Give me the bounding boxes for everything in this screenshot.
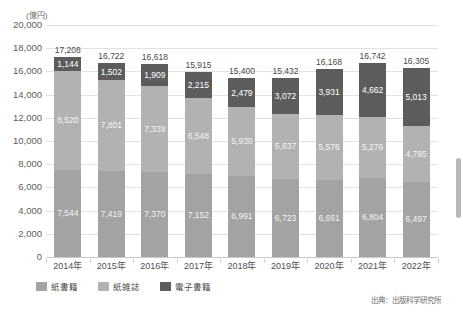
- bar-segment-mag[interactable]: 5,576: [316, 115, 343, 180]
- bar-stack[interactable]: 4,6625,2766,80416,742: [359, 63, 386, 257]
- y-axis-tick-label: 6,000: [0, 181, 42, 192]
- bar-stack[interactable]: 3,0725,6376,72315,432: [272, 78, 299, 257]
- x-axis-labels: 2014年2015年2016年2017年2018年2019年2020年2021年…: [46, 259, 438, 275]
- bar-segment-ebook[interactable]: 2,479: [228, 78, 255, 107]
- bar-segment-value-label: 7,419: [101, 210, 122, 219]
- legend-label: 電子書籍: [175, 280, 211, 292]
- bar-segment-value-label: 7,801: [101, 121, 122, 130]
- bar-total-label: 17,208: [55, 45, 81, 55]
- bar-stack[interactable]: 1,5027,8017,41916,722: [98, 63, 125, 257]
- bar-segment-book[interactable]: 6,723: [272, 179, 299, 257]
- x-axis-tick-mark: [220, 259, 221, 263]
- bar-segment-ebook[interactable]: 1,909: [141, 64, 168, 86]
- y-axis-tick-label: 18,000: [0, 42, 42, 53]
- bar-segment-value-label: 1,909: [144, 71, 165, 80]
- bar-total-label: 15,400: [229, 66, 255, 76]
- bar-segment-value-label: 6,991: [231, 212, 252, 221]
- bar-column[interactable]: 1,9097,3397,37016,618: [134, 25, 176, 257]
- bar-segment-ebook[interactable]: 3,931: [316, 69, 343, 115]
- bar-segment-ebook[interactable]: 2,215: [185, 72, 212, 98]
- bar-total-label: 16,742: [360, 51, 386, 61]
- bar-stack[interactable]: 5,0134,7956,49716,305: [403, 68, 430, 257]
- y-axis-tick-label: 14,000: [0, 89, 42, 100]
- y-axis-tick-label: 12,000: [0, 112, 42, 123]
- x-axis-tick-label: 2022年: [395, 259, 437, 272]
- bar-segment-mag[interactable]: 6,548: [185, 98, 212, 174]
- bar-column[interactable]: 2,2156,5487,15215,915: [178, 25, 220, 257]
- bar-total-label: 16,722: [98, 51, 124, 61]
- chart-legend: 紙書籍紙雑誌電子書籍: [36, 280, 211, 292]
- legend-swatch-icon: [160, 282, 171, 291]
- bar-stack[interactable]: 1,1448,5207,54417,208: [54, 57, 81, 257]
- x-axis-tick-label: 2021年: [352, 259, 394, 272]
- bar-segment-value-label: 1,502: [101, 68, 122, 77]
- x-axis-tick-label: 2016年: [134, 259, 176, 272]
- bar-column[interactable]: 3,9315,5766,66116,168: [308, 25, 350, 257]
- x-axis-tick-mark: [307, 259, 308, 263]
- y-axis-tick-label: 20,000: [0, 19, 42, 30]
- x-axis-tick-mark: [351, 259, 352, 263]
- bar-segment-book[interactable]: 7,544: [54, 170, 81, 258]
- bar-segment-value-label: 5,013: [406, 93, 427, 102]
- x-axis-tick-mark: [90, 259, 91, 263]
- x-axis-tick-label: 2018年: [221, 259, 263, 272]
- stacked-bar-chart: (億円) 1,1448,5207,54417,2081,5027,8017,41…: [0, 0, 463, 313]
- bar-total-label: 16,618: [142, 52, 168, 62]
- y-axis-tick-label: 10,000: [0, 135, 42, 146]
- bar-column[interactable]: 1,5027,8017,41916,722: [91, 25, 133, 257]
- scrollbar-thumb[interactable]: [456, 158, 461, 218]
- bar-total-label: 16,168: [316, 57, 342, 67]
- bar-segment-ebook[interactable]: 4,662: [359, 63, 386, 117]
- x-axis-tick-mark: [46, 259, 47, 263]
- legend-item[interactable]: 電子書籍: [160, 280, 211, 292]
- bar-segment-ebook[interactable]: 1,144: [54, 57, 81, 70]
- bar-segment-mag[interactable]: 7,339: [141, 86, 168, 171]
- bar-segment-ebook[interactable]: 3,072: [272, 78, 299, 114]
- bar-segment-value-label: 5,930: [231, 137, 252, 146]
- bar-segment-mag[interactable]: 7,801: [98, 80, 125, 170]
- y-axis-tick-label: 8,000: [0, 158, 42, 169]
- bar-segment-mag[interactable]: 5,637: [272, 114, 299, 179]
- x-axis-tick-label: 2014年: [47, 259, 89, 272]
- bar-column[interactable]: 3,0725,6376,72315,432: [265, 25, 307, 257]
- bar-segment-value-label: 7,152: [188, 211, 209, 220]
- legend-label: 紙書籍: [51, 280, 78, 292]
- bar-segment-value-label: 3,931: [318, 88, 339, 97]
- bar-column[interactable]: 1,1448,5207,54417,208: [47, 25, 89, 257]
- bar-stack[interactable]: 2,4795,9306,99115,400: [228, 78, 255, 257]
- bar-column[interactable]: 5,0134,7956,49716,305: [395, 25, 437, 257]
- bar-segment-mag[interactable]: 8,520: [54, 71, 81, 170]
- bar-stack[interactable]: 1,9097,3397,37016,618: [141, 64, 168, 257]
- bar-segment-value-label: 6,661: [318, 214, 339, 223]
- x-axis-tick-label: 2015年: [91, 259, 133, 272]
- bar-segment-book[interactable]: 6,497: [403, 182, 430, 257]
- bar-segment-value-label: 4,795: [406, 150, 427, 159]
- bar-segment-book[interactable]: 7,152: [185, 174, 212, 257]
- bar-segment-ebook[interactable]: 5,013: [403, 68, 430, 126]
- bar-segment-book[interactable]: 7,419: [98, 171, 125, 257]
- legend-item[interactable]: 紙雑誌: [98, 280, 140, 292]
- bar-stack[interactable]: 2,2156,5487,15215,915: [185, 72, 212, 257]
- scrollbar-track[interactable]: [454, 0, 463, 313]
- bar-segment-book[interactable]: 6,991: [228, 176, 255, 257]
- bar-segment-mag[interactable]: 5,930: [228, 107, 255, 176]
- x-axis-tick-mark: [264, 259, 265, 263]
- bar-segment-mag[interactable]: 4,795: [403, 126, 430, 182]
- bar-segment-value-label: 7,370: [144, 210, 165, 219]
- bar-stack[interactable]: 3,9315,5766,66116,168: [316, 69, 343, 257]
- bar-total-label: 16,305: [403, 56, 429, 66]
- bar-segment-ebook[interactable]: 1,502: [98, 63, 125, 80]
- bar-segment-value-label: 5,576: [318, 143, 339, 152]
- bar-segment-book[interactable]: 7,370: [141, 172, 168, 257]
- x-axis-tick-mark: [133, 259, 134, 263]
- axis-baseline: [46, 257, 438, 258]
- x-axis-tick-mark: [438, 259, 439, 263]
- bar-segment-value-label: 5,637: [275, 142, 296, 151]
- bar-segment-value-label: 5,276: [362, 143, 383, 152]
- legend-item[interactable]: 紙書籍: [36, 280, 78, 292]
- bar-segment-mag[interactable]: 5,276: [359, 117, 386, 178]
- bar-column[interactable]: 2,4795,9306,99115,400: [221, 25, 263, 257]
- bar-column[interactable]: 4,6625,2766,80416,742: [352, 25, 394, 257]
- bar-segment-book[interactable]: 6,804: [359, 178, 386, 257]
- bar-segment-book[interactable]: 6,661: [316, 180, 343, 257]
